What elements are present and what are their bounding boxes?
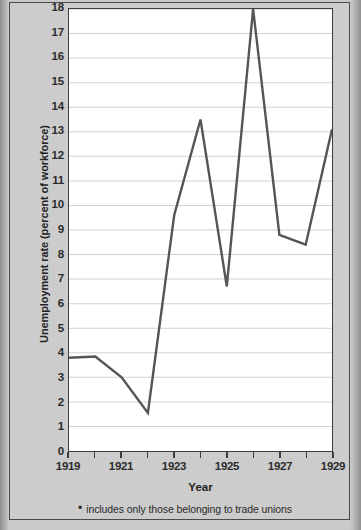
y-axis-tick-label: 4 [58, 348, 64, 360]
y-axis-tick-label: 15 [52, 76, 64, 88]
y-axis-tick-labels: 0123456789101112131415161718 [38, 8, 64, 452]
y-axis-tick-label: 8 [58, 249, 64, 261]
x-axis-ticks [68, 452, 333, 459]
y-axis-tick-label: 16 [52, 52, 64, 64]
footnote-text: includes only those belonging to trade u… [86, 503, 292, 515]
x-axis-tick [147, 452, 148, 458]
series-polyline [69, 9, 332, 413]
x-axis-tick [332, 452, 333, 458]
x-axis-tick-label: 1925 [215, 460, 239, 472]
y-axis-tick-label: 1 [58, 422, 64, 434]
y-axis-tick-label: 6 [58, 298, 64, 310]
x-axis-tick-label: 1923 [162, 460, 186, 472]
figure-root: Unemployment rate (percent of workforce)… [0, 0, 361, 530]
y-axis-tick-label: 0 [58, 446, 64, 458]
x-axis-tick-label: 1927 [268, 460, 292, 472]
x-axis-tick [120, 452, 121, 458]
x-axis-tick [200, 452, 201, 458]
y-axis-tick-label: 7 [58, 274, 64, 286]
y-axis-tick-label: 2 [58, 397, 64, 409]
plot-area [68, 8, 333, 452]
footnote-bullet-icon: • [78, 501, 82, 515]
y-axis-tick-label: 14 [52, 101, 64, 113]
data-series-line [69, 9, 332, 451]
x-axis-tick [226, 452, 227, 458]
y-axis-tick-label: 9 [58, 224, 64, 236]
line-chart: Unemployment rate (percent of workforce)… [0, 0, 361, 530]
x-axis-tick-labels: 191919211923192519271929 [68, 460, 333, 478]
x-axis-tick-label: 1921 [109, 460, 133, 472]
y-axis-tick-label: 17 [52, 27, 64, 39]
y-axis-tick-label: 5 [58, 323, 64, 335]
x-axis-tick-label: 1929 [321, 460, 345, 472]
footnote: •includes only those belonging to trade … [30, 501, 340, 515]
x-axis-tick [279, 452, 280, 458]
x-axis-tick [94, 452, 95, 458]
x-axis-tick [306, 452, 307, 458]
y-axis-tick-label: 3 [58, 372, 64, 384]
y-axis-tick-label: 12 [52, 150, 64, 162]
y-axis-tick-label: 13 [52, 126, 64, 138]
x-axis-tick [253, 452, 254, 458]
y-axis-tick-label: 18 [52, 2, 64, 14]
x-axis-tick [173, 452, 174, 458]
x-axis-tick-label: 1919 [56, 460, 80, 472]
y-axis-tick-label: 11 [52, 175, 64, 187]
x-axis-tick [67, 452, 68, 458]
y-axis-tick-label: 10 [52, 200, 64, 212]
x-axis-title: Year [68, 481, 333, 493]
